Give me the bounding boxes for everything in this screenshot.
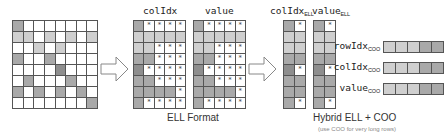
matrix-cell [87, 43, 97, 53]
ell-colidx-cell [155, 98, 164, 108]
matrix-cell [24, 21, 34, 31]
ell-colidx-cell [165, 21, 174, 31]
ell-colidx-cell [134, 21, 143, 31]
matrix-cell [34, 98, 44, 108]
matrix-cell [45, 98, 55, 108]
matrix-cell [13, 87, 23, 97]
matrix-cell [87, 54, 97, 64]
ell-colidx-cell [134, 98, 143, 108]
ell-value-cell [215, 98, 224, 108]
coo-cell [420, 84, 431, 94]
matrix-cell [24, 65, 34, 75]
coo-rowidx-label: rowIdxCOO [334, 40, 380, 52]
coo-cell [396, 84, 407, 94]
hybrid-colidx-cell [295, 54, 305, 64]
right-arrow-icon [100, 55, 130, 83]
matrix-cell [34, 76, 44, 86]
ell-colidx-grid [133, 20, 186, 109]
ell-colidx-cell [176, 43, 185, 53]
ell-value-cell [194, 98, 203, 108]
ell-colidx-cell [155, 32, 164, 42]
coo-cell [384, 84, 395, 94]
matrix-cell [66, 76, 76, 86]
matrix-cell [56, 43, 66, 53]
hybrid-colidx-cell [284, 98, 294, 108]
ell-value-cell [215, 65, 224, 75]
ell-value-cell [194, 32, 203, 42]
ell-colidx-cell [165, 65, 174, 75]
matrix-cell [56, 21, 66, 31]
hybrid-colidx-cell [284, 65, 294, 75]
hybrid-colidx-cell [295, 43, 305, 53]
hybrid-value-cell [314, 65, 324, 75]
hybrid-colidx-label: colIdxELL [270, 5, 314, 17]
ell-value-cell [225, 65, 234, 75]
hybrid-value-cell [314, 87, 324, 97]
hybrid-colidx-cell [284, 54, 294, 64]
ell-colidx-cell [134, 76, 143, 86]
matrix-cell [56, 32, 66, 42]
ell-colidx-cell [155, 87, 164, 97]
matrix-cell [56, 65, 66, 75]
matrix-cell [13, 65, 23, 75]
ell-colidx-cell [165, 98, 174, 108]
coo-colidx-label: colIdxCOO [334, 61, 380, 73]
matrix-cell [34, 43, 44, 53]
matrix-cell [13, 32, 23, 42]
matrix-cell [77, 21, 87, 31]
matrix-cell [13, 54, 23, 64]
hybrid-colidx-cell [284, 87, 294, 97]
ell-value-grid [193, 20, 246, 109]
matrix-cell [45, 87, 55, 97]
ell-value-cell [236, 65, 245, 75]
hybrid-colidx-cell [295, 98, 305, 108]
coo-cell [384, 42, 395, 52]
matrix-cell [24, 32, 34, 42]
matrix-cell [34, 65, 44, 75]
ell-value-label: value [205, 5, 234, 16]
ell-colidx-cell [155, 65, 164, 75]
hybrid-value-cell [314, 21, 324, 31]
hybrid-colidx-cell [295, 21, 305, 31]
ell-value-cell [236, 54, 245, 64]
ell-value-cell [204, 21, 213, 31]
matrix-cell [24, 98, 34, 108]
coo-rowidx-array [383, 41, 444, 53]
ell-value-cell [236, 43, 245, 53]
ell-value-cell [225, 32, 234, 42]
hybrid-colidx-cell [284, 76, 294, 86]
ell-value-cell [236, 32, 245, 42]
hybrid-value-cell [314, 76, 324, 86]
matrix-cell [56, 87, 66, 97]
matrix-cell [34, 32, 44, 42]
ell-colidx-cell [176, 87, 185, 97]
matrix-cell [24, 76, 34, 86]
ell-value-cell [225, 98, 234, 108]
ell-colidx-cell [144, 21, 153, 31]
matrix-cell [66, 21, 76, 31]
ell-value-cell [194, 76, 203, 86]
coo-colidx-array [383, 62, 444, 74]
matrix-cell [34, 87, 44, 97]
dense-matrix [12, 20, 98, 109]
ell-value-cell [204, 43, 213, 53]
matrix-cell [77, 98, 87, 108]
ell-value-cell [204, 87, 213, 97]
matrix-cell [45, 65, 55, 75]
matrix-cell [34, 54, 44, 64]
ell-colidx-cell [134, 65, 143, 75]
matrix-cell [66, 43, 76, 53]
coo-cell [408, 84, 419, 94]
matrix-cell [13, 21, 23, 31]
ell-value-cell [204, 54, 213, 64]
ell-colidx-cell [176, 98, 185, 108]
matrix-cell [87, 65, 97, 75]
matrix-cell [87, 76, 97, 86]
ell-colidx-label: colIdx [143, 5, 177, 16]
coo-cell [432, 84, 443, 94]
coo-cell [420, 42, 431, 52]
ell-colidx-cell [144, 76, 153, 86]
coo-cell [432, 63, 443, 73]
matrix-cell [24, 87, 34, 97]
hybrid-value-cell [325, 98, 335, 108]
